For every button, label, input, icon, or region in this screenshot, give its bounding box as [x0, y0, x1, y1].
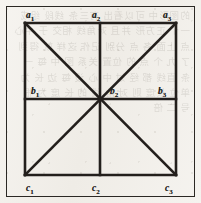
point-label-a3: a3 [163, 11, 171, 23]
point-label-a2: a2 [92, 11, 100, 23]
label-subscript: 2 [97, 15, 101, 23]
label-subscript: 1 [30, 188, 34, 196]
point-label-c1: c1 [26, 184, 34, 196]
point-label-c2: c2 [92, 184, 100, 196]
label-subscript: 3 [163, 91, 167, 99]
point-label-c3: c3 [165, 184, 173, 196]
label-subscript: 2 [96, 188, 100, 196]
point-label-a1: a1 [26, 11, 34, 23]
label-subscript: 1 [36, 91, 40, 99]
label-subscript: 1 [31, 15, 35, 23]
diagram-canvas [0, 0, 201, 203]
figure-container: 的图形中 可以看出 有三条 线段 组成 一个 正方形 并且 对角线 相交 于 中… [0, 0, 201, 203]
point-label-b3: b3 [158, 87, 166, 99]
point-label-b2: b2 [110, 87, 118, 99]
point-label-b1: b1 [31, 87, 39, 99]
label-subscript: 2 [115, 91, 119, 99]
label-subscript: 3 [168, 15, 172, 23]
label-subscript: 3 [169, 188, 173, 196]
